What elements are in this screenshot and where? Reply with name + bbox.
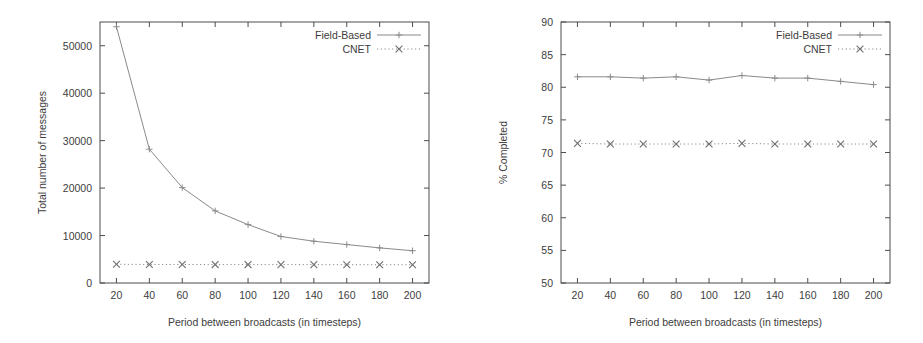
x-tick-label: 40 xyxy=(605,289,617,301)
y-tick-label: 50 xyxy=(541,277,553,289)
x-tick-label: 200 xyxy=(404,289,422,301)
plot-frame xyxy=(561,22,890,283)
y-tick-label: 50000 xyxy=(63,40,92,52)
x-axis-title: Period between broadcasts (in timesteps) xyxy=(629,316,822,328)
y-tick-label: 75 xyxy=(541,114,553,126)
legend-sample-cnet xyxy=(377,46,421,53)
x-tick-label: 180 xyxy=(371,289,389,301)
series-field-based xyxy=(113,24,416,254)
series-line xyxy=(116,27,412,251)
y-tick-label: 55 xyxy=(541,244,553,256)
x-tick-label: 120 xyxy=(733,289,751,301)
y-tick-label: 85 xyxy=(541,49,553,61)
x-tick-label: 80 xyxy=(670,289,682,301)
y-tick-label: 65 xyxy=(541,179,553,191)
x-tick-label: 60 xyxy=(176,289,188,301)
y-tick-label: 40000 xyxy=(63,87,92,99)
legend-sample-field-based xyxy=(377,32,421,38)
x-tick-label: 160 xyxy=(338,289,356,301)
y-tick-label: 80 xyxy=(541,81,553,93)
legend-sample-cnet xyxy=(838,46,882,53)
y-tick-label: 60 xyxy=(541,212,553,224)
legend-label-field-based: Field-Based xyxy=(776,29,832,41)
x-tick-label: 120 xyxy=(272,289,290,301)
total-messages-chart: 2040608010012014016018020001000020000300… xyxy=(0,0,462,343)
percent-completed-chart: 2040608010012014016018020050556065707580… xyxy=(461,0,923,343)
x-tick-label: 40 xyxy=(144,289,156,301)
x-tick-label: 160 xyxy=(799,289,817,301)
x-tick-label: 20 xyxy=(111,289,123,301)
y-tick-label: 70 xyxy=(541,147,553,159)
legend-label-cnet: CNET xyxy=(342,43,371,55)
legend-label-cnet: CNET xyxy=(803,43,832,55)
y-tick-label: 0 xyxy=(86,277,92,289)
series-cnet xyxy=(113,261,416,268)
x-tick-label: 100 xyxy=(239,289,257,301)
legend-label-field-based: Field-Based xyxy=(315,29,371,41)
x-tick-label: 100 xyxy=(700,289,718,301)
percent-completed-plot: 2040608010012014016018020050556065707580… xyxy=(461,0,923,343)
legend-sample-field-based xyxy=(838,32,882,38)
series-line xyxy=(577,76,873,85)
y-tick-label: 90 xyxy=(541,16,553,28)
y-axis-title: Total number of messages xyxy=(36,91,48,214)
series-field-based xyxy=(574,72,877,88)
x-axis-title: Period between broadcasts (in timesteps) xyxy=(168,316,361,328)
x-tick-label: 140 xyxy=(766,289,784,301)
x-tick-label: 80 xyxy=(209,289,221,301)
x-tick-label: 180 xyxy=(832,289,850,301)
y-axis-title: % Completed xyxy=(497,121,509,184)
x-tick-label: 200 xyxy=(865,289,883,301)
y-tick-label: 30000 xyxy=(63,135,92,147)
total-messages-plot: 2040608010012014016018020001000020000300… xyxy=(0,0,462,343)
x-tick-label: 60 xyxy=(637,289,649,301)
series-line xyxy=(577,143,873,144)
y-tick-label: 20000 xyxy=(63,182,92,194)
figure-container: 2040608010012014016018020001000020000300… xyxy=(0,0,923,343)
x-tick-label: 140 xyxy=(305,289,323,301)
plot-frame xyxy=(100,22,429,283)
x-tick-label: 20 xyxy=(572,289,584,301)
y-tick-label: 10000 xyxy=(63,230,92,242)
series-cnet xyxy=(574,140,877,147)
